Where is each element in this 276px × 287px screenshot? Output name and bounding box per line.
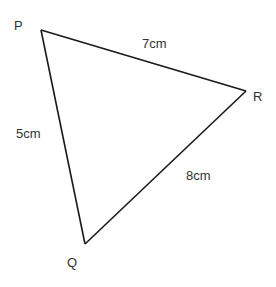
side-label-qr: 8cm <box>186 168 211 183</box>
vertex-label-p: P <box>14 18 23 33</box>
side-label-pq: 5cm <box>16 126 41 141</box>
side-rq <box>85 91 246 244</box>
triangle-diagram: P R Q 7cm 5cm 8cm <box>0 0 276 287</box>
side-label-pr: 7cm <box>142 36 167 51</box>
side-qp <box>41 30 85 244</box>
vertex-label-r: R <box>253 89 262 104</box>
vertex-label-q: Q <box>67 255 77 270</box>
